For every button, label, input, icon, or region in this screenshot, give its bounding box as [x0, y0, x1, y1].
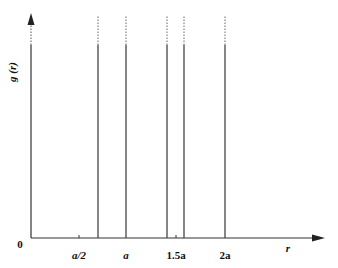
x-axis-label: r [286, 242, 291, 254]
x-axis-arrow-icon [312, 235, 325, 242]
y-axis-label: g (r) [6, 62, 19, 83]
tick-label-1-5a: 1.5a [166, 249, 186, 261]
spikes [98, 16, 225, 238]
tick-label-2a: 2a [220, 249, 232, 261]
rdf-chart: 0 a/2 a 1.5a 2a r g (r) [0, 0, 338, 268]
tick-label-half: a/2 [72, 249, 87, 261]
y-axis-arrow-icon [28, 13, 35, 25]
origin-label: 0 [17, 238, 23, 250]
tick-label-a: a [123, 249, 129, 261]
